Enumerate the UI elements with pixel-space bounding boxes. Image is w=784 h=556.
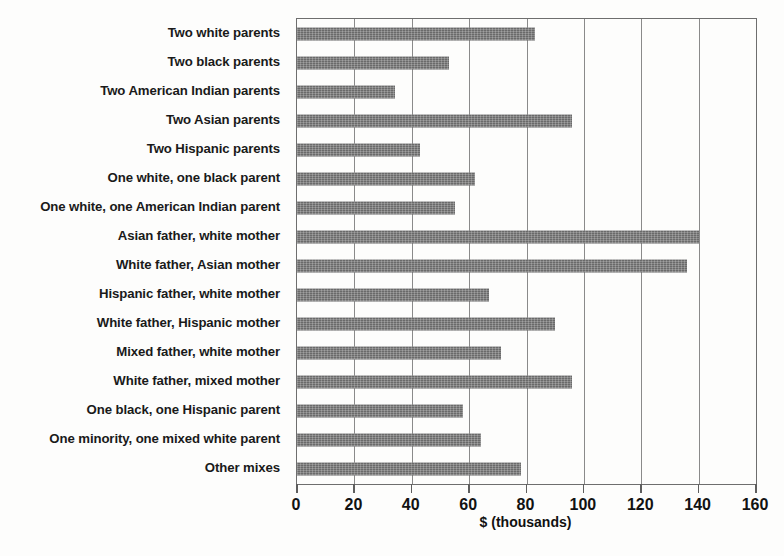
bar — [297, 201, 455, 214]
x-tick-label: 40 — [402, 496, 420, 514]
category-label: Two white parents — [0, 26, 280, 40]
category-label: Two black parents — [0, 55, 280, 69]
gridline — [641, 19, 642, 484]
x-tick-label: 160 — [742, 496, 769, 514]
category-label: Hispanic father, white mother — [0, 287, 280, 301]
category-label: Two Asian parents — [0, 113, 280, 127]
bar — [297, 85, 395, 98]
x-tick-label: 0 — [292, 496, 301, 514]
x-tick-mark — [353, 484, 355, 493]
x-tick-label: 140 — [684, 496, 711, 514]
bar-chart: Two white parentsTwo black parentsTwo Am… — [0, 0, 784, 556]
category-label: White father, Asian mother — [0, 258, 280, 272]
x-tick-label: 120 — [627, 496, 654, 514]
category-label: Two American Indian parents — [0, 84, 280, 98]
x-tick-mark — [296, 484, 298, 493]
category-label: One minority, one mixed white parent — [0, 432, 280, 446]
x-tick-mark — [755, 484, 757, 493]
gridline — [527, 19, 528, 484]
category-label: One black, one Hispanic parent — [0, 403, 280, 417]
x-tick-mark — [468, 484, 470, 493]
category-label: White father, mixed mother — [0, 374, 280, 388]
gridline — [469, 19, 470, 484]
bar — [297, 260, 687, 273]
bar — [297, 376, 572, 389]
bar — [297, 405, 463, 418]
x-tick-label: 20 — [344, 496, 362, 514]
x-tick-mark — [526, 484, 528, 493]
x-axis-title: $ (thousands) — [296, 514, 755, 530]
bar — [297, 230, 699, 243]
bar — [297, 318, 555, 331]
x-tick-mark — [698, 484, 700, 493]
bar — [297, 172, 475, 185]
category-label: One white, one black parent — [0, 171, 280, 185]
bar — [297, 347, 501, 360]
category-axis: Two white parentsTwo black parentsTwo Am… — [0, 18, 288, 483]
gridline — [699, 19, 700, 484]
gridline — [584, 19, 585, 484]
category-label: Two Hispanic parents — [0, 142, 280, 156]
x-tick-mark — [640, 484, 642, 493]
bar — [297, 434, 481, 447]
category-label: Mixed father, white mother — [0, 345, 280, 359]
bar — [297, 56, 449, 69]
bar — [297, 27, 535, 40]
plot-area — [296, 18, 757, 485]
bar — [297, 463, 521, 476]
x-tick-label: 60 — [459, 496, 477, 514]
category-label: Other mixes — [0, 461, 280, 475]
category-label: One white, one American Indian parent — [0, 200, 280, 214]
category-label: White father, Hispanic mother — [0, 316, 280, 330]
x-tick-label: 80 — [517, 496, 535, 514]
bar — [297, 289, 489, 302]
x-tick-mark — [583, 484, 585, 493]
bar — [297, 143, 420, 156]
x-tick-mark — [411, 484, 413, 493]
x-tick-label: 100 — [570, 496, 597, 514]
category-label: Asian father, white mother — [0, 229, 280, 243]
bar — [297, 114, 572, 127]
